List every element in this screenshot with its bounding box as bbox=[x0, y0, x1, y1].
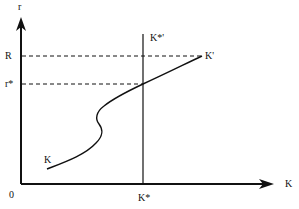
tick-label-R: R bbox=[5, 51, 12, 61]
vertical-line-label: K*' bbox=[150, 33, 164, 43]
tick-label-k-star: K* bbox=[138, 193, 150, 203]
x-axis-label: K bbox=[285, 179, 292, 189]
y-axis-label: r bbox=[18, 2, 21, 12]
tick-label-r-star: r* bbox=[5, 79, 13, 89]
curve-start-label: K bbox=[44, 155, 51, 165]
origin-label: 0 bbox=[9, 190, 14, 200]
k-curve bbox=[47, 56, 202, 169]
curve-end-label: K' bbox=[205, 51, 214, 61]
